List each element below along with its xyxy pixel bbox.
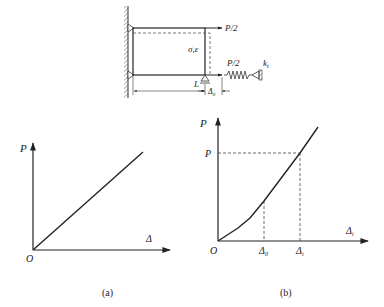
load-label-bottom: P/2 [226, 58, 240, 68]
deformed-outline [133, 33, 210, 75]
fixed-wall [124, 6, 128, 98]
load-label-top: P/2 [224, 23, 238, 33]
a-y-label: P [19, 142, 27, 154]
spring-icon [224, 71, 252, 79]
panel-a: P Δ O (a) [19, 142, 170, 299]
spring-stiffness-label: kt [263, 58, 269, 69]
b-x-label: Δt [345, 225, 354, 237]
spring-anchor-icon [252, 71, 259, 79]
b-y-label: P [199, 117, 207, 129]
a-curve [33, 152, 143, 250]
schematic: σ,ε P/2 P/2 kt L Δ0 [124, 6, 269, 98]
figure-canvas: σ,ε P/2 P/2 kt L Δ0 P Δ O (a) [0, 0, 384, 307]
panel-b: P P Δt O Δ0 Δt (b) [199, 117, 368, 299]
b-curve [218, 127, 318, 241]
stress-strain-label: σ,ε [188, 44, 199, 54]
b-x-tick-deltat: Δt [295, 245, 304, 257]
a-caption: (a) [102, 287, 113, 299]
roller-support-icon [201, 75, 209, 81]
gap-label: Δ0 [207, 87, 216, 97]
a-origin-label: O [26, 253, 33, 264]
b-origin-label: O [210, 245, 217, 256]
b-y-tick-label: P [204, 148, 211, 159]
spring-fixed-block [259, 70, 262, 80]
b-caption: (b) [280, 287, 292, 299]
length-label: L [193, 79, 199, 89]
a-x-label: Δ [145, 233, 152, 244]
b-x-tick-delta0: Δ0 [258, 245, 268, 257]
